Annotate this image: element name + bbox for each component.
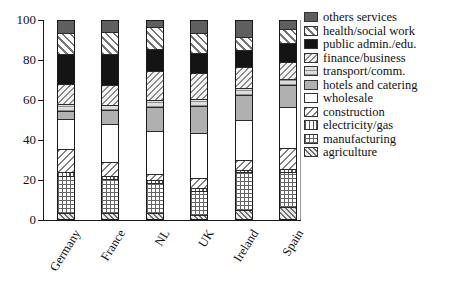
segment-spain-others_services <box>280 21 296 29</box>
legend-label-wholesale: wholesale <box>323 92 373 105</box>
segment-france-manufacturing <box>102 179 118 213</box>
legend-label-others_services: others services <box>323 11 397 24</box>
segment-spain-hotels_catering <box>280 85 296 107</box>
segment-ireland-health_social <box>236 37 252 50</box>
legend-label-electricity_gas: electricity/gas <box>323 119 393 132</box>
y-tick-label-100: 100 <box>2 13 36 27</box>
legend-item-public_admin_edu: public admin./edu. <box>304 38 417 52</box>
segment-ireland-hotels_catering <box>236 95 252 120</box>
legend-label-hotels_catering: hotels and catering <box>323 79 417 92</box>
y-tick-label-60: 60 <box>2 93 36 107</box>
segment-germany-construction <box>58 149 74 173</box>
legend-swatch-finance_business <box>304 53 318 63</box>
segment-ireland-agriculture <box>236 210 252 219</box>
segment-germany-health_social <box>58 33 74 54</box>
legend-item-electricity_gas: electricity/gas <box>304 119 417 133</box>
segment-france-public_admin_edu <box>102 54 118 86</box>
segment-france-hotels_catering <box>102 110 118 124</box>
legend-swatch-wholesale <box>304 93 318 103</box>
segment-spain-finance_business <box>280 62 296 80</box>
segment-spain-manufacturing <box>280 172 296 208</box>
legend-swatch-health_social <box>304 26 318 36</box>
segment-france-finance_business <box>102 85 118 105</box>
legend-swatch-construction <box>304 107 318 117</box>
segment-uk-wholesale <box>191 133 207 179</box>
segment-nl-agriculture <box>147 213 163 219</box>
segment-nl-hotels_catering <box>147 107 163 131</box>
segment-france-wholesale <box>102 124 118 162</box>
segment-ireland-others_services <box>236 21 252 37</box>
segment-france-construction <box>102 162 118 177</box>
segment-nl-health_social <box>147 27 163 49</box>
x-label-germany: Germany <box>47 227 84 274</box>
segment-germany-others_services <box>58 21 74 33</box>
y-tick-60 <box>38 100 43 101</box>
legend-swatch-others_services <box>304 12 318 22</box>
y-tick-80 <box>38 60 43 61</box>
y-tick-label-80: 80 <box>2 53 36 67</box>
segment-france-health_social <box>102 32 118 54</box>
stacked-bar-chart: 020406080100 GermanyFranceNLUKIrelandSpa… <box>0 0 451 283</box>
segment-france-agriculture <box>102 213 118 219</box>
legend-label-finance_business: finance/business <box>323 52 406 65</box>
legend-item-finance_business: finance/business <box>304 52 417 66</box>
legend-label-agriculture: agriculture <box>323 146 377 159</box>
bar-uk <box>190 20 208 220</box>
segment-spain-health_social <box>280 29 296 43</box>
segment-nl-wholesale <box>147 131 163 175</box>
bar-france <box>101 20 119 220</box>
segment-ireland-transport_comm <box>236 88 252 95</box>
segment-nl-transport_comm <box>147 100 163 107</box>
legend-item-manufacturing: manufacturing <box>304 133 417 147</box>
x-label-uk: UK <box>196 227 218 250</box>
legend-item-construction: construction <box>304 106 417 120</box>
segment-uk-health_social <box>191 33 207 53</box>
x-label-spain: Spain <box>279 227 307 259</box>
x-label-nl: NL <box>152 227 174 249</box>
bar-germany <box>57 20 75 220</box>
legend-item-transport_comm: transport/comm. <box>304 65 417 79</box>
segment-uk-manufacturing <box>191 191 207 215</box>
y-tick-40 <box>38 140 43 141</box>
segment-germany-agriculture <box>58 213 74 219</box>
x-label-france: France <box>98 227 129 264</box>
segment-germany-manufacturing <box>58 176 74 213</box>
legend-swatch-electricity_gas <box>304 120 318 130</box>
segment-uk-hotels_catering <box>191 106 207 133</box>
segment-germany-hotels_catering <box>58 111 74 119</box>
legend-swatch-public_admin_edu <box>304 39 318 49</box>
legend-swatch-manufacturing <box>304 134 318 144</box>
segment-germany-transport_comm <box>58 104 74 111</box>
legend-swatch-hotels_catering <box>304 80 318 90</box>
segment-spain-wholesale <box>280 107 296 148</box>
segment-spain-construction <box>280 148 296 169</box>
legend-label-public_admin_edu: public admin./edu. <box>323 38 416 51</box>
plot-right-border <box>300 20 301 221</box>
segment-nl-finance_business <box>147 71 163 101</box>
y-tick-label-0: 0 <box>2 213 36 227</box>
legend-label-health_social: health/social work <box>323 25 415 38</box>
segment-germany-finance_business <box>58 84 74 104</box>
y-tick-0 <box>38 220 43 221</box>
segment-spain-agriculture <box>280 207 296 219</box>
segment-germany-wholesale <box>58 119 74 149</box>
x-label-ireland: Ireland <box>231 227 262 265</box>
y-tick-label-20: 20 <box>2 173 36 187</box>
legend-item-hotels_catering: hotels and catering <box>304 79 417 93</box>
segment-nl-manufacturing <box>147 183 163 213</box>
segment-ireland-wholesale <box>236 120 252 160</box>
segment-uk-construction <box>191 178 207 188</box>
segment-uk-public_admin_edu <box>191 53 207 74</box>
y-tick-100 <box>38 20 43 21</box>
segment-uk-finance_business <box>191 73 207 99</box>
bar-spain <box>279 20 297 220</box>
segment-uk-transport_comm <box>191 99 207 106</box>
y-tick-20 <box>38 180 43 181</box>
legend-label-construction: construction <box>323 106 385 119</box>
segment-ireland-finance_business <box>236 67 252 89</box>
x-axis-line <box>43 220 301 221</box>
legend-label-manufacturing: manufacturing <box>323 133 396 146</box>
segment-uk-others_services <box>191 21 207 33</box>
legend-swatch-agriculture <box>304 147 318 157</box>
legend-item-agriculture: agriculture <box>304 146 417 160</box>
